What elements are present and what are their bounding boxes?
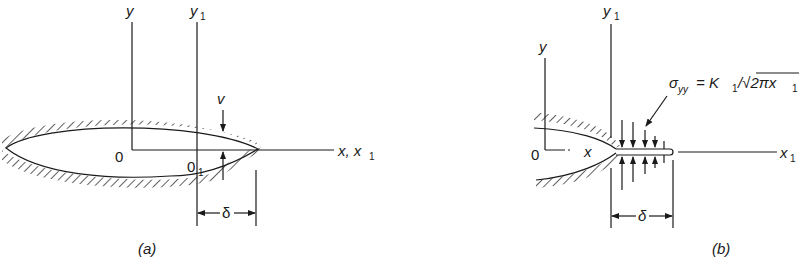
displacement-label: v bbox=[217, 90, 226, 107]
x1-label-b: x bbox=[779, 144, 788, 161]
y1-axis-subscript-b: 1 bbox=[614, 11, 620, 22]
stress-rest: /√2πx bbox=[737, 74, 777, 91]
origin-label-b: 0 bbox=[531, 146, 539, 163]
caption-a: (a) bbox=[138, 240, 156, 257]
crack-diagram: y y 1 x, x 1 0 0 1 v δ (a) y bbox=[0, 0, 799, 272]
delta-label: δ bbox=[222, 204, 230, 221]
cohesive-zone bbox=[616, 149, 673, 155]
stress-subscript: yy bbox=[677, 84, 689, 95]
stress-rest-subscript: 1 bbox=[792, 83, 798, 94]
crack-upper-hatch-b bbox=[534, 112, 620, 148]
stress-equation: = K bbox=[696, 74, 720, 91]
y1-axis-subscript: 1 bbox=[200, 11, 206, 22]
y-axis-label: y bbox=[125, 2, 135, 19]
y-axis-label-b: y bbox=[538, 38, 548, 55]
y1-axis-label: y bbox=[189, 2, 199, 19]
x-axis-label: x, x bbox=[337, 142, 362, 159]
x1-subscript-b: 1 bbox=[790, 153, 796, 164]
origin1-subscript: 1 bbox=[198, 167, 204, 178]
origin-label: 0 bbox=[115, 148, 123, 165]
caption-b: (b) bbox=[712, 240, 730, 257]
stress-leader bbox=[646, 96, 667, 126]
x-label-b: x bbox=[583, 143, 592, 160]
figure-a: y y 1 x, x 1 0 0 1 v δ (a) bbox=[2, 2, 375, 257]
delta-label-b: δ bbox=[638, 207, 647, 224]
y1-axis-label-b: y bbox=[602, 2, 612, 19]
figure-b: y 0 x y 1 x 1 σ yy = K 1 /√2πx 1 bbox=[531, 2, 799, 257]
origin1-label: 0 bbox=[187, 158, 195, 175]
x-axis-subscript: 1 bbox=[369, 151, 375, 162]
